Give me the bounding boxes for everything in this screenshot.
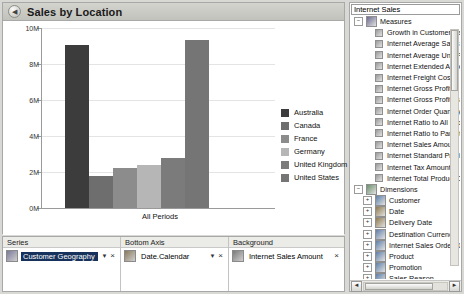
tree-node[interactable]: Internet Total Product Cost: [351, 173, 460, 184]
chart-bar[interactable]: [113, 168, 137, 209]
measure-icon: [375, 74, 383, 82]
measure-icon: [375, 51, 383, 59]
chart-bar[interactable]: [137, 165, 161, 208]
tree-node[interactable]: +Internet Sales Order Details: [351, 240, 460, 251]
tree-expander-icon[interactable]: +: [363, 230, 372, 239]
tree-spacer: [363, 29, 370, 36]
tree-node[interactable]: +Date: [351, 206, 460, 217]
close-icon[interactable]: ×: [334, 252, 339, 260]
tree-node[interactable]: Internet Gross Profit Margin: [351, 94, 460, 105]
time-dimension-icon: [375, 217, 386, 228]
tree-node[interactable]: Internet Standard Product Cost: [351, 150, 460, 161]
field-chip[interactable]: Internet Sales Amount×: [229, 248, 344, 262]
tree-node[interactable]: Internet Sales Amount: [351, 139, 460, 150]
measure-icon: [375, 141, 383, 149]
tree-expander-icon[interactable]: −: [354, 17, 363, 26]
chart-bar[interactable]: [161, 158, 185, 208]
tree-node[interactable]: Internet Extended Amount: [351, 61, 460, 72]
tree-node[interactable]: +Delivery Date: [351, 217, 460, 228]
dimension-icon: [375, 273, 386, 279]
legend-item[interactable]: Australia: [281, 106, 343, 119]
tree-node[interactable]: Internet Average Unit Price: [351, 50, 460, 61]
measure-icon: [375, 163, 383, 171]
y-axis-tick-label: 2M: [9, 169, 39, 176]
chart-legend: AustraliaCanadaFranceGermanyUnited Kingd…: [281, 106, 343, 184]
tree-node-label: Promotion: [389, 263, 422, 272]
scroll-left-icon[interactable]: ◄: [351, 281, 362, 292]
chart-bar[interactable]: [65, 45, 89, 208]
tree-node[interactable]: −Dimensions: [351, 184, 460, 195]
field-chip[interactable]: Date.Calendar▼×: [121, 248, 228, 262]
legend-item[interactable]: Germany: [281, 145, 343, 158]
tree-spacer: [363, 96, 370, 103]
drop-zone-background[interactable]: BackgroundInternet Sales Amount×: [229, 237, 344, 291]
tree-node[interactable]: +Destination Currency: [351, 229, 460, 240]
tree-node[interactable]: Internet Ratio to Parent Product: [351, 128, 460, 139]
tree-node-label: Internet Freight Cost: [387, 73, 453, 82]
measure-icon: [375, 29, 383, 37]
x-axis-category-label: All Periods: [41, 212, 279, 221]
dimension-icon: [375, 251, 386, 262]
tree-expander-icon[interactable]: −: [354, 185, 363, 194]
chevron-down-icon[interactable]: ▼: [101, 253, 107, 259]
legend-item[interactable]: United Kingdom: [281, 158, 343, 171]
legend-item[interactable]: United States: [281, 171, 343, 184]
tree-expander-icon[interactable]: +: [363, 241, 372, 250]
tree-node[interactable]: +Product: [351, 251, 460, 262]
tree-expander-icon[interactable]: +: [363, 207, 372, 216]
drop-zone-header: Bottom Axis: [121, 237, 228, 248]
scroll-right-icon[interactable]: ►: [449, 281, 460, 292]
cube-selector[interactable]: Internet Sales: [351, 4, 460, 15]
tree-node[interactable]: Internet Ratio to All Products: [351, 117, 460, 128]
tree-node[interactable]: +Sales Reason: [351, 273, 460, 279]
legend-item[interactable]: Canada: [281, 119, 343, 132]
measure-icon: [375, 107, 383, 115]
tree-node[interactable]: Internet Gross Profit: [351, 83, 460, 94]
tree-node-label: Customer: [389, 196, 420, 205]
tree-node[interactable]: Growth in Customer Base: [351, 27, 460, 38]
bar-group: [65, 28, 209, 208]
tree-node[interactable]: Internet Tax Amount: [351, 161, 460, 172]
metadata-pane: Internet Sales −MeasuresGrowth in Custom…: [349, 2, 462, 292]
tree-node[interactable]: Internet Freight Cost: [351, 72, 460, 83]
tree-node[interactable]: Internet Average Sales Amount: [351, 38, 460, 49]
legend-swatch-icon: [281, 161, 289, 169]
legend-label: United Kingdom: [294, 160, 347, 169]
dimension-icon: [375, 240, 386, 251]
tree-spacer: [363, 130, 370, 137]
tree-expander-icon[interactable]: +: [363, 252, 372, 261]
drop-zone-series[interactable]: SeriesCustomer Geography▼×: [3, 237, 121, 291]
tree-node[interactable]: −Measures: [351, 16, 460, 27]
legend-item[interactable]: France: [281, 132, 343, 145]
chevron-down-icon[interactable]: ▼: [209, 253, 215, 259]
field-chip[interactable]: Customer Geography▼×: [3, 248, 120, 262]
chart-panel: ◀ Sales by Location 0M2M4M6M8M10MAll Per…: [2, 2, 345, 234]
field-drop-zones: SeriesCustomer Geography▼×Bottom AxisDat…: [2, 236, 345, 292]
drop-zone-bottom[interactable]: Bottom AxisDate.Calendar▼×: [121, 237, 229, 291]
metadata-vertical-scrollbar[interactable]: [450, 29, 459, 266]
tree-spacer: [363, 85, 370, 92]
tree-node[interactable]: Internet Order Quantity: [351, 106, 460, 117]
scroll-track[interactable]: [363, 282, 448, 291]
tree-expander-icon[interactable]: +: [363, 263, 372, 272]
legend-label: Germany: [294, 147, 325, 156]
time-dimension-icon: [375, 206, 386, 217]
scroll-thumb[interactable]: [365, 283, 433, 290]
tree-expander-icon[interactable]: +: [363, 196, 372, 205]
metadata-horizontal-scrollbar[interactable]: ◄ ►: [350, 280, 461, 291]
chart-bar[interactable]: [185, 40, 209, 208]
tree-expander-icon[interactable]: +: [363, 218, 372, 227]
close-icon[interactable]: ×: [110, 252, 115, 260]
scroll-thumb[interactable]: [451, 30, 458, 91]
tree-node[interactable]: +Promotion: [351, 262, 460, 273]
close-icon[interactable]: ×: [218, 252, 223, 260]
back-arrow-icon[interactable]: ◀: [8, 5, 21, 18]
metadata-tree[interactable]: −MeasuresGrowth in Customer BaseInternet…: [351, 16, 460, 279]
chart-bar[interactable]: [89, 176, 113, 208]
dimension-icon: [375, 229, 386, 240]
tree-node-label: Measures: [380, 17, 412, 26]
tree-expander-icon[interactable]: +: [363, 274, 372, 279]
data-mining-chart-window: ◀ Sales by Location 0M2M4M6M8M10MAll Per…: [0, 0, 464, 294]
tree-node[interactable]: +Customer: [351, 195, 460, 206]
y-axis-tick-label: 8M: [9, 61, 39, 68]
